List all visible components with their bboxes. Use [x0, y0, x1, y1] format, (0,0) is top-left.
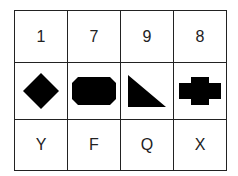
- shape-cell-2: [68, 63, 121, 120]
- cross-icon: [179, 77, 221, 105]
- number-cell-2: 7: [68, 11, 121, 63]
- shape-cell-3: [121, 63, 174, 120]
- letter-cell-1: Y: [15, 120, 68, 170]
- right-triangle-icon: [128, 75, 166, 107]
- letter-cell-2: F: [68, 120, 121, 170]
- shape-cell-1: [15, 63, 68, 120]
- diamond-icon: [21, 71, 61, 111]
- letter-cell-3: Q: [121, 120, 174, 170]
- number-cell-1: 1: [15, 11, 68, 63]
- number-cell-3: 9: [121, 11, 174, 63]
- octagon-rectangle-icon: [72, 77, 116, 105]
- number-cell-4: 8: [174, 11, 226, 63]
- letter-cell-4: X: [174, 120, 226, 170]
- shape-cell-4: [174, 63, 226, 120]
- symbol-code-table: 1 7 9 8 Y F Q X: [14, 10, 227, 171]
